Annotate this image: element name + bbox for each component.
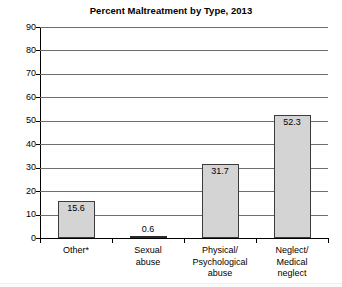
bar-value-label: 52.3 [272, 117, 312, 127]
y-tick-label-20: 20 [12, 187, 36, 196]
y-tick-label-70: 70 [12, 69, 36, 78]
x-separator-tick [40, 238, 41, 243]
y-tick-label-40: 40 [12, 140, 36, 149]
bar-value-label: 31.7 [200, 166, 240, 176]
y-tick-label-10: 10 [12, 210, 36, 219]
x-category-label-line: Neglect/ [247, 245, 337, 257]
y-tick-label-80: 80 [12, 46, 36, 55]
chart-title: Percent Maltreatment by Type, 2013 [0, 5, 342, 17]
y-tick-label-90: 90 [12, 23, 36, 32]
y-tick-label-0: 0 [12, 234, 36, 243]
y-axis-line [40, 27, 41, 239]
bar-chart: Percent Maltreatment by Type, 2013 90807… [0, 0, 342, 287]
bar-value-label: 15.6 [56, 203, 96, 213]
scan-edge-artifact [0, 283, 342, 287]
bar [274, 115, 311, 238]
x-category-label: Neglect/Medicalneglect [247, 245, 337, 280]
x-separator-tick [256, 238, 257, 243]
gridline-90 [40, 27, 328, 28]
y-tick-label-60: 60 [12, 93, 36, 102]
y-tick-label-30: 30 [12, 163, 36, 172]
y-tick-label-50: 50 [12, 116, 36, 125]
x-separator-tick [184, 238, 185, 243]
gridline-70 [40, 74, 328, 75]
gridline-80 [40, 50, 328, 51]
x-category-label-line: neglect [247, 268, 337, 280]
x-category-label-line: Medical [247, 257, 337, 269]
x-separator-tick [112, 238, 113, 243]
gridline-60 [40, 97, 328, 98]
bar-value-label: 0.6 [128, 224, 168, 234]
x-separator-tick [328, 238, 329, 243]
